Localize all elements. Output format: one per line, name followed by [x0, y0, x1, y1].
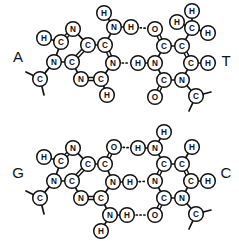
atom-n-a-n9: N	[47, 55, 62, 70]
atom-label: N	[51, 177, 57, 186]
atom-h-g-h8: H	[37, 150, 52, 165]
atom-layer: HCNCCONHCNHHNCNCHNHCCHCHNCCON	[33, 125, 216, 239]
atom-label: N	[111, 23, 117, 32]
bond-c-c6-c-n1	[186, 188, 188, 192]
atom-h-g-h1: H	[123, 175, 138, 190]
atom-label: H	[104, 91, 110, 100]
sugar-stub-c-c1s	[189, 221, 193, 229]
atom-label: H	[189, 143, 195, 152]
bond-g-c2-g-n3	[89, 196, 94, 199]
atom-o-t-o2: O	[148, 90, 163, 105]
atom-label: H	[41, 153, 47, 162]
atom-h-a-h61: H	[97, 6, 112, 21]
atom-h-c-h6: H	[201, 174, 216, 189]
bond-t-n3-t-c4	[159, 53, 161, 57]
bond-g-n9-g-c8	[57, 168, 59, 174]
atom-label: C	[161, 42, 167, 51]
atom-label: C	[179, 160, 185, 169]
atom-c-a-c8: C	[54, 35, 69, 50]
bond-c-c5-c-h5	[186, 154, 188, 158]
atom-label: O	[152, 211, 159, 220]
atom-label: N	[152, 144, 158, 153]
sugar-stub-t-c1s	[203, 92, 211, 94]
atom-c-t-c4: C	[157, 39, 172, 54]
atom-c-a-c6: C	[98, 38, 113, 53]
bond-a-n9-a-c1s	[45, 68, 49, 73]
atom-label: C	[193, 92, 199, 101]
guanine-cytosine-pair: HCNCCONHCNHHNCNCHNHCCHCHNCCON	[26, 125, 215, 239]
bond-a-n9-a-c8	[57, 49, 59, 55]
atom-c-g-c2: C	[94, 191, 109, 206]
atom-label: N	[70, 144, 76, 153]
atom-o-t-o4: O	[148, 22, 163, 37]
base-label-guanine: G	[12, 164, 24, 181]
bond-t-c6-t-n1	[186, 70, 188, 74]
bond-g-n1-g-c2	[106, 188, 109, 192]
bond-a-c6-a-n6	[108, 34, 110, 38]
atom-n-g-n3: N	[74, 191, 89, 206]
atom-label: N	[78, 194, 84, 203]
atom-c-c-c2: C	[157, 191, 172, 206]
atom-label: N	[110, 59, 116, 68]
sugar-stub-g-c1s	[42, 205, 44, 214]
atom-c-c-c1s: C	[189, 207, 204, 222]
atom-label: C	[58, 38, 64, 47]
bond-g-n2-g-h21	[105, 222, 107, 225]
bond-c-h41-c-n4	[159, 139, 161, 142]
atom-c-g-c8: C	[54, 154, 69, 169]
atom-h-g-h21: H	[94, 224, 109, 239]
atom-c-t-c2: C	[157, 73, 172, 88]
sugar-stub-g-c1s	[26, 191, 33, 195]
atom-h-c-h41: H	[157, 125, 172, 140]
atom-n-g-n7: N	[66, 141, 81, 156]
atom-c-t-c5: C	[175, 39, 190, 54]
atom-label: N	[179, 76, 185, 85]
bond-a-n1-a-c2	[106, 69, 109, 73]
bond-g-n3-g-c4	[76, 188, 78, 192]
atom-c-g-c5: C	[81, 157, 96, 172]
atom-label: H	[205, 29, 211, 38]
sugar-stub-a-c1s	[42, 86, 44, 95]
atom-label: H	[205, 177, 211, 186]
atom-h-c-h42: H	[131, 141, 146, 156]
atom-label: C	[37, 75, 43, 84]
atom-label: C	[37, 194, 43, 203]
atom-c-t-c1s: C	[189, 89, 204, 104]
bond-g-n7-g-c5	[78, 154, 83, 159]
sugar-stub-c-c1s	[203, 210, 211, 212]
atom-label: N	[70, 25, 76, 34]
atom-h-g-h22: H	[120, 208, 135, 223]
atom-label: C	[85, 160, 91, 169]
atom-h-c-h5: H	[185, 140, 200, 155]
bond-c-c2-c-n3	[159, 188, 161, 192]
atom-n-g-n2: N	[103, 208, 118, 223]
atom-label: H	[135, 59, 141, 68]
atom-label: N	[152, 59, 158, 68]
atom-h-a-h62: H	[124, 20, 139, 35]
atom-c-g-c1s: C	[33, 191, 48, 206]
atom-c-a-c1s: C	[33, 72, 48, 87]
atom-h-t-h72: H	[185, 4, 200, 19]
atom-label: C	[102, 41, 108, 50]
atom-label: N	[110, 178, 116, 187]
atom-n-a-n1: N	[106, 56, 121, 71]
dna-base-pairing-figure: HCNCCNHHNCHNCNCOCCCHHHCHNCCONHHCNCCONHCN…	[0, 0, 239, 241]
base-label-cytosine: C	[221, 164, 232, 181]
bond-g-n9-g-c1s	[45, 187, 49, 192]
atom-label: H	[124, 211, 130, 220]
atom-c-t-c7: C	[185, 21, 200, 36]
atom-label: O	[152, 25, 159, 34]
atom-n-a-n6: N	[107, 20, 122, 35]
atom-label: H	[205, 59, 211, 68]
atom-n-a-n7: N	[66, 22, 81, 37]
atom-label: C	[193, 210, 199, 219]
atom-n-g-n1: N	[106, 175, 121, 190]
bond-t-c2-t-n3	[159, 70, 161, 74]
atom-c-g-c6: C	[98, 157, 113, 172]
bond-t-c5-t-c7	[186, 35, 189, 40]
atom-label: C	[189, 24, 195, 33]
atom-c-a-c5: C	[81, 38, 96, 53]
atom-n-t-n3: N	[148, 56, 163, 71]
bond-a-c2-a-n3	[89, 77, 94, 80]
atom-h-t-h73: H	[201, 26, 216, 41]
